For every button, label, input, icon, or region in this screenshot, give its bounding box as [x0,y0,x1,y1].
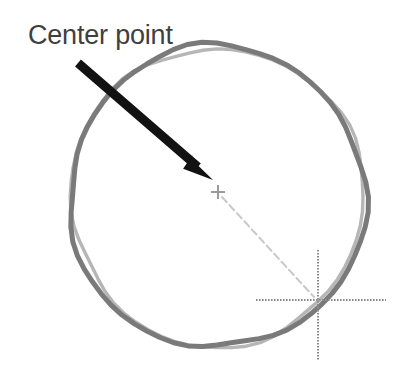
diagram-canvas: Center point [0,0,397,381]
center-point-diagram: Center point [0,0,397,381]
center-point-label: Center point [28,20,173,50]
background [0,0,397,381]
